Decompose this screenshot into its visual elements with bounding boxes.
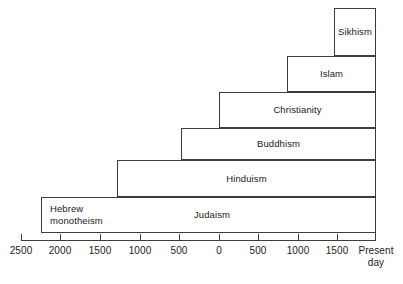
axis-label-0: 0 — [199, 245, 239, 256]
bar-islam: Islam — [287, 56, 376, 92]
axis-label-1000ce: 1000 — [278, 245, 318, 256]
chart-plot-area: Sikhism Islam Christianity Buddhism Hind… — [0, 0, 403, 284]
bar-label-islam: Islam — [320, 68, 343, 80]
axis-label-500bce: 500 — [159, 245, 199, 256]
bar-label-sikhism: Sikhism — [338, 26, 372, 38]
x-axis-line — [21, 240, 376, 241]
bar-judaism: Hebrew monotheism Judaism — [41, 197, 376, 233]
bar-label-hinduism: Hinduism — [226, 173, 266, 185]
bar-buddhism: Buddhism — [181, 128, 376, 160]
bar-hinduism: Hinduism — [117, 160, 376, 197]
axis-label-500ce: 500 — [238, 245, 278, 256]
axis-label-2500bce: 2500 — [1, 245, 41, 256]
axis-tick-1500bce — [100, 234, 101, 240]
axis-tick-1000bce — [140, 234, 141, 240]
bar-sikhism: Sikhism — [334, 8, 376, 56]
axis-tick-2500bce — [21, 234, 22, 240]
bar-label-buddhism: Buddhism — [257, 138, 300, 150]
axis-label-2000bce: 2000 — [40, 245, 80, 256]
axis-tick-1500ce — [337, 234, 338, 240]
bar-label-judaism: Judaism — [194, 209, 230, 221]
bar-label-christianity: Christianity — [273, 104, 321, 116]
religion-timeline-chart: Sikhism Islam Christianity Buddhism Hind… — [0, 0, 403, 284]
axis-tick-500ce — [258, 234, 259, 240]
axis-tick-0 — [219, 234, 220, 240]
axis-label-1500bce: 1500 — [80, 245, 120, 256]
bar-christianity: Christianity — [219, 92, 376, 128]
axis-tick-2000bce — [60, 234, 61, 240]
bar-label-hebrew-monotheism: Hebrew monotheism — [50, 203, 103, 227]
axis-label-present-day: Present day — [351, 245, 401, 269]
axis-tick-500bce — [179, 234, 180, 240]
axis-tick-present — [375, 233, 376, 240]
axis-label-1000bce: 1000 — [120, 245, 160, 256]
axis-tick-1000ce — [298, 234, 299, 240]
